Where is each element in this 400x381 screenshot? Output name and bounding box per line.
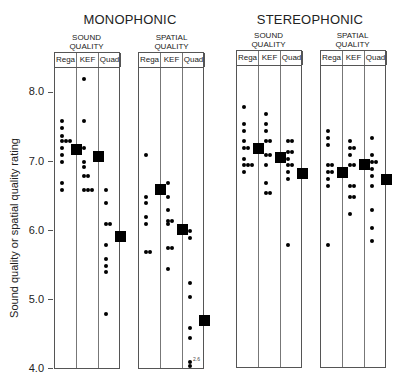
column-header-rega: Rega xyxy=(55,53,77,67)
data-point xyxy=(250,163,254,167)
data-point xyxy=(242,105,246,109)
data-point xyxy=(330,163,334,167)
data-point xyxy=(352,163,356,167)
mean-marker xyxy=(93,151,104,162)
data-point xyxy=(348,139,352,143)
mean-marker xyxy=(381,174,392,185)
data-point xyxy=(330,170,334,174)
data-point xyxy=(326,143,330,147)
data-point xyxy=(166,267,170,271)
column-header-rega: Rega xyxy=(321,51,343,65)
panel-mono-sound: RegaKEFQuad xyxy=(54,52,120,369)
data-point xyxy=(242,170,246,174)
data-point xyxy=(144,222,148,226)
data-point xyxy=(264,112,268,116)
data-point xyxy=(352,195,356,199)
data-point xyxy=(242,157,246,161)
data-point xyxy=(188,229,192,233)
mean-marker xyxy=(115,231,126,242)
column-header-rega: Rega xyxy=(237,51,259,65)
data-point xyxy=(242,129,246,133)
subtitle-mono-spatial: SPATIAL QUALITY xyxy=(139,33,204,51)
data-point xyxy=(326,184,330,188)
data-point xyxy=(326,177,330,181)
data-point xyxy=(104,257,108,261)
data-point xyxy=(104,188,108,192)
y-tick-label-6: 6.0 xyxy=(14,224,44,236)
y-tick-6 xyxy=(48,230,53,231)
data-point xyxy=(268,153,272,157)
data-point xyxy=(352,146,356,150)
data-point xyxy=(242,139,246,143)
off-scale-annotation: 2.6 xyxy=(193,356,200,362)
data-point xyxy=(352,184,356,188)
data-point xyxy=(348,212,352,216)
data-point xyxy=(286,177,290,181)
column-divider xyxy=(182,53,183,368)
panel-mono-spatial: RegaKEFQuad xyxy=(138,52,204,369)
column-divider xyxy=(342,51,343,367)
data-point xyxy=(370,208,374,212)
data-point xyxy=(326,136,330,140)
column-divider xyxy=(98,53,99,368)
data-point xyxy=(104,243,108,247)
data-point xyxy=(166,195,170,199)
y-tick-label-4: 4.0 xyxy=(14,362,44,374)
data-point xyxy=(82,146,86,150)
y-tick-4 xyxy=(48,368,53,369)
data-point xyxy=(166,181,170,185)
data-point xyxy=(170,219,174,223)
data-point xyxy=(264,181,268,185)
data-point xyxy=(188,326,192,330)
column-divider xyxy=(160,53,161,368)
data-point xyxy=(370,226,374,230)
mean-marker xyxy=(297,168,308,179)
data-point xyxy=(326,129,330,133)
data-point xyxy=(264,122,268,126)
data-point xyxy=(144,153,148,157)
column-header-quad: Quad xyxy=(99,53,121,67)
data-point xyxy=(348,153,352,157)
data-point xyxy=(290,139,294,143)
data-point xyxy=(188,336,192,340)
mean-marker xyxy=(155,184,166,195)
data-point xyxy=(188,281,192,285)
data-point xyxy=(374,160,378,164)
subtitle-mono-sound: SOUND QUALITY xyxy=(54,33,119,51)
data-point xyxy=(370,153,374,157)
group-title-stereophonic: STEREOPHONIC xyxy=(250,12,370,27)
y-tick-5 xyxy=(48,299,53,300)
data-point xyxy=(264,163,268,167)
data-point xyxy=(286,157,290,161)
y-tick-8 xyxy=(48,92,53,93)
subtitle-stereo-sound: SOUND QUALITY xyxy=(236,31,301,49)
data-point xyxy=(170,246,174,250)
header-divider xyxy=(55,67,119,68)
data-point xyxy=(60,134,64,138)
data-point xyxy=(90,188,94,192)
data-point xyxy=(60,146,64,150)
data-point xyxy=(188,295,192,299)
data-point xyxy=(144,215,148,219)
mean-marker xyxy=(275,152,286,163)
subtitle-stereo-spatial: SPATIAL QUALITY xyxy=(320,31,385,49)
header-divider xyxy=(237,65,301,66)
data-point xyxy=(188,364,192,368)
header-divider xyxy=(321,65,385,66)
y-tick-label-8: 8.0 xyxy=(14,85,44,97)
column-divider xyxy=(76,53,77,368)
column-header-quad: Quad xyxy=(183,53,205,67)
panel-stereo-spatial: RegaKEFQuad xyxy=(320,50,386,368)
data-point xyxy=(264,129,268,133)
data-point xyxy=(370,136,374,140)
y-tick-7 xyxy=(48,161,53,162)
data-point xyxy=(370,184,374,188)
header-divider xyxy=(139,67,203,68)
column-header-quad: Quad xyxy=(365,51,387,65)
mean-marker xyxy=(337,167,348,178)
column-header-rega: Rega xyxy=(139,53,161,67)
data-point xyxy=(148,250,152,254)
data-point xyxy=(108,222,112,226)
group-title-monophonic: MONOPHONIC xyxy=(70,12,190,27)
panel-stereo-sound: RegaKEFQuad xyxy=(236,50,302,368)
